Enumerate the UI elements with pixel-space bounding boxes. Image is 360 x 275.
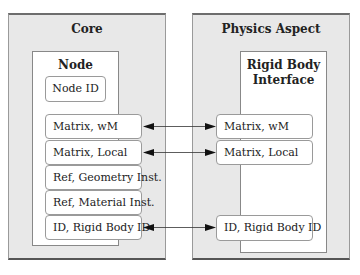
node-title: Node [33, 58, 118, 73]
physics-field-rigid-body-id: ID, Rigid Body ID [216, 215, 313, 241]
core-field-rigid-body-id: ID, Rigid Body ID [45, 215, 142, 240]
core-field-matrix-wm: Matrix, wM [45, 114, 142, 139]
physics-aspect-title: Physics Aspect [193, 22, 349, 36]
node-id-field: Node ID [45, 76, 106, 102]
physics-field-matrix-wm: Matrix, wM [216, 114, 313, 139]
core-field-matrix-local: Matrix, Local [45, 140, 142, 165]
core-panel-title: Core [9, 22, 165, 36]
rigid-body-interface-title-line1: Rigid Body [241, 58, 326, 73]
physics-field-matrix-local: Matrix, Local [216, 140, 313, 165]
core-field-ref-geometry: Ref, Geometry Inst. [45, 165, 142, 190]
rigid-body-interface-title-line2: Interface [241, 73, 326, 88]
core-field-ref-material: Ref, Material Inst. [45, 190, 142, 215]
